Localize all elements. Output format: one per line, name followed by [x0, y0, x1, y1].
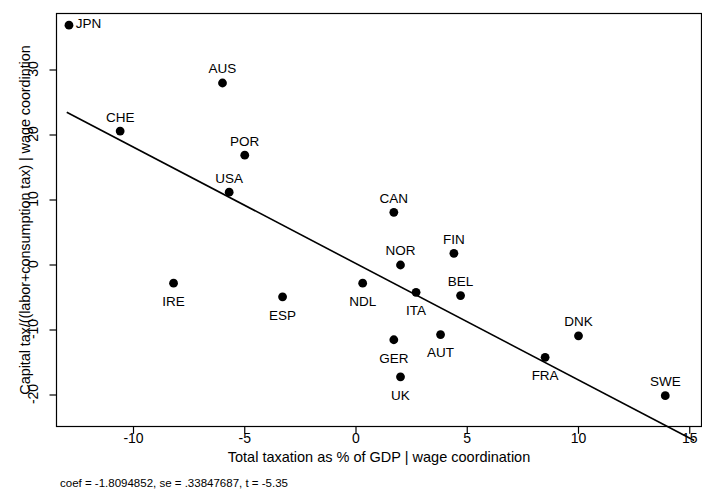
data-point-label: GER: [379, 351, 408, 366]
data-point-label: FIN: [443, 232, 465, 247]
y-tick-label: -20: [18, 386, 48, 402]
x-tick-label: 0: [352, 430, 360, 446]
data-point-marker: [218, 79, 227, 88]
x-tick-label: 15: [682, 430, 698, 446]
data-point-label: UK: [391, 388, 410, 403]
data-point-marker: [358, 279, 367, 288]
data-point-marker: [389, 208, 398, 217]
data-point-marker: [541, 353, 550, 362]
x-axis-title: Total taxation as % of GDP | wage coordi…: [56, 449, 702, 465]
data-point-marker: [169, 279, 178, 288]
data-point-label: BEL: [448, 274, 474, 289]
data-point-marker: [456, 291, 465, 300]
regression-stats-note: coef = -1.8094852, se = .33847687, t = -…: [60, 477, 288, 489]
data-points: [65, 21, 670, 400]
data-point-label: SWE: [650, 374, 681, 389]
y-tick-label: 10: [18, 191, 48, 207]
data-point-label: POR: [230, 134, 259, 149]
scatter-plot-figure: Capital tax/((labor+consumption tax) | w…: [0, 0, 702, 502]
x-tick-label: -5: [239, 430, 251, 446]
data-point-label: DNK: [564, 314, 593, 329]
y-tick-label: 0: [18, 256, 48, 272]
data-point-marker: [65, 21, 74, 30]
x-tick-label: -10: [123, 430, 143, 446]
data-point-marker: [574, 331, 583, 340]
data-point-label: CHE: [106, 110, 135, 125]
data-point-marker: [661, 391, 670, 400]
data-point-marker: [450, 249, 459, 258]
data-point-marker: [389, 335, 398, 344]
x-axis-ticks: [134, 427, 690, 434]
data-point-marker: [412, 288, 421, 297]
x-tick-label: 5: [463, 430, 471, 446]
data-point-label: NDL: [349, 294, 376, 309]
y-tick-label: -10: [18, 321, 48, 337]
y-tick-label: 30: [18, 61, 48, 77]
data-point-label: AUT: [427, 345, 454, 360]
regression-line: [67, 112, 694, 440]
y-tick-label: 20: [18, 126, 48, 142]
data-point-marker: [240, 151, 249, 160]
data-point-label: NOR: [386, 243, 416, 258]
data-point-label: ESP: [269, 308, 296, 323]
data-point-marker: [396, 372, 405, 381]
plot-canvas: [0, 0, 702, 502]
data-point-marker: [225, 188, 234, 197]
x-tick-label: 10: [571, 430, 587, 446]
data-point-label: USA: [215, 171, 243, 186]
data-point-label: ITA: [406, 303, 426, 318]
data-point-label: CAN: [380, 191, 409, 206]
data-point-label: JPN: [76, 16, 102, 31]
data-point-marker: [396, 261, 405, 270]
y-axis-ticks: [50, 70, 57, 395]
data-point-marker: [116, 127, 125, 136]
data-point-marker: [436, 330, 445, 339]
data-point-marker: [278, 292, 287, 301]
data-point-label: AUS: [209, 61, 237, 76]
data-point-label: FRA: [532, 368, 559, 383]
data-point-label: IRE: [162, 294, 185, 309]
